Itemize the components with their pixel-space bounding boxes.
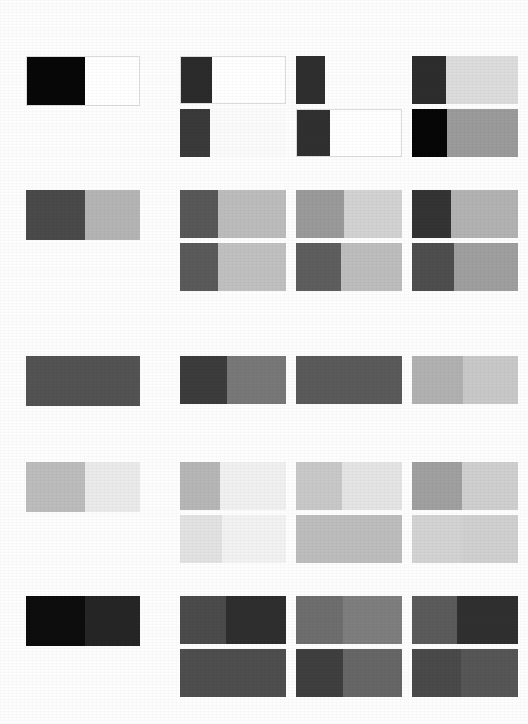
reference-swatch-5-right-half: [85, 596, 140, 646]
cell-2-4-left-half: [180, 243, 218, 291]
cell-3-1: [180, 356, 286, 404]
cell-4-1: [180, 462, 286, 510]
cell-4-4-right-half: [222, 515, 286, 563]
cell-5-5-right-half: [343, 649, 402, 697]
cell-4-4-left-half: [180, 515, 222, 563]
cell-2-5: [296, 243, 402, 291]
cell-4-5-right-half: [349, 515, 402, 563]
reference-swatch-3-right-half: [83, 356, 140, 406]
cell-5-1: [180, 596, 286, 644]
cell-5-6: [412, 649, 518, 697]
reference-swatch-3-slot: [26, 356, 140, 406]
cell-4-2-left-half: [296, 462, 342, 510]
cell-1-3: [412, 56, 518, 104]
cell-1-1-slot: [180, 56, 286, 104]
cell-4-6-slot: [412, 515, 518, 563]
reference-swatch-3-left-half: [26, 356, 83, 406]
reference-swatch-5-slot: [26, 596, 140, 646]
dark-mid-gray-group: [0, 190, 528, 291]
reference-swatch-2-slot: [26, 190, 140, 240]
cell-4-1-left-half: [180, 462, 220, 510]
cell-1-1: [180, 56, 286, 104]
cell-1-2-slot: [296, 56, 402, 104]
reference-swatch-1: [26, 56, 140, 106]
cell-5-3-left-half: [412, 596, 457, 644]
cell-5-1-right-half: [226, 596, 286, 644]
cell-5-2: [296, 596, 402, 644]
cell-1-4-left-half: [180, 109, 210, 157]
cell-3-2-left-half: [296, 356, 349, 404]
cell-3-2-slot: [296, 356, 402, 404]
cell-5-6-right-half: [461, 649, 518, 697]
cell-1-6-left-half: [412, 109, 447, 157]
cell-4-1-right-half: [220, 462, 286, 510]
cell-3-2: [296, 356, 402, 404]
cell-4-2-slot: [296, 462, 402, 510]
cell-4-6: [412, 515, 518, 563]
cell-1-1-right-half: [212, 57, 285, 103]
cell-1-2-right-half: [325, 56, 402, 104]
reference-swatch-3: [26, 356, 140, 406]
cell-4-3-slot: [412, 462, 518, 510]
cell-4-2: [296, 462, 402, 510]
cell-3-1-slot: [180, 356, 286, 404]
black-white-group: [0, 56, 528, 157]
cell-5-6-slot: [412, 649, 518, 697]
reference-swatch-5-left-half: [26, 596, 85, 646]
cell-2-2-slot: [296, 190, 402, 238]
cell-1-2-left-half: [296, 56, 325, 104]
cell-1-3-slot: [412, 56, 518, 104]
reference-swatch-5: [26, 596, 140, 646]
light-gray-group: [0, 462, 528, 563]
cell-2-1-left-half: [180, 190, 218, 238]
reference-swatch-2-left-half: [26, 190, 85, 240]
cell-3-1-right-half: [227, 356, 286, 404]
cell-5-4-left-half: [180, 649, 233, 697]
cell-1-5-right-half: [330, 110, 401, 156]
cell-3-4-slot: [180, 409, 286, 457]
cell-3-5-slot: [296, 409, 402, 457]
cell-2-6-slot: [412, 243, 518, 291]
cell-2-2-right-half: [344, 190, 402, 238]
cell-4-5-left-half: [296, 515, 349, 563]
cell-2-4-slot: [180, 243, 286, 291]
reference-swatch-1-left-half: [27, 57, 85, 105]
cell-5-5-left-half: [296, 649, 343, 697]
reference-swatch-4-right-half: [85, 462, 140, 512]
cell-3-3-slot: [412, 356, 518, 404]
cell-2-3-slot: [412, 190, 518, 238]
cell-5-4-right-half: [233, 649, 286, 697]
cell-5-2-right-half: [343, 596, 402, 644]
cell-1-4: [180, 109, 286, 157]
cell-2-6: [412, 243, 518, 291]
cell-2-1: [180, 190, 286, 238]
cell-1-4-slot: [180, 109, 286, 157]
cell-5-2-left-half: [296, 596, 343, 644]
cell-3-6-slot: [412, 409, 518, 457]
cell-1-4-right-half: [210, 109, 286, 157]
cell-5-5: [296, 649, 402, 697]
cell-2-5-left-half: [296, 243, 341, 291]
cell-2-6-right-half: [454, 243, 518, 291]
cell-2-5-right-half: [341, 243, 402, 291]
near-black-group: [0, 596, 528, 697]
reference-swatch-4-slot: [26, 462, 140, 512]
cell-2-2-left-half: [296, 190, 344, 238]
cell-4-1-slot: [180, 462, 286, 510]
cell-4-5-slot: [296, 515, 402, 563]
cell-5-6-left-half: [412, 649, 461, 697]
cell-1-6-slot: [412, 109, 518, 157]
cell-4-2-right-half: [342, 462, 402, 510]
cell-3-2-right-half: [349, 356, 402, 404]
cell-5-1-slot: [180, 596, 286, 644]
cell-4-3-left-half: [412, 462, 462, 510]
cell-2-1-slot: [180, 190, 286, 238]
swatch-sheet: [0, 0, 528, 724]
cell-3-1-left-half: [180, 356, 227, 404]
reference-swatch-1-slot: [26, 56, 140, 106]
cell-3-3-left-half: [412, 356, 463, 404]
cell-1-1-left-half: [181, 57, 212, 103]
cell-2-6-left-half: [412, 243, 454, 291]
cell-5-1-left-half: [180, 596, 226, 644]
cell-2-5-slot: [296, 243, 402, 291]
